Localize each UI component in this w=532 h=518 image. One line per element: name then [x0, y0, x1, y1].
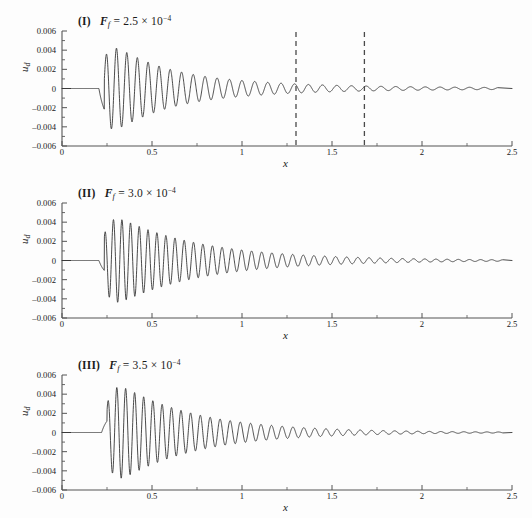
panel-title-II: (II) Ff = 3.0 × 10−4 — [78, 186, 176, 201]
y-tick-label: –0.004 — [20, 294, 56, 304]
x-axis-label-I: x — [283, 157, 288, 169]
waveform-curve — [62, 388, 512, 479]
y-tick-label: 0.002 — [20, 64, 56, 74]
force-value-III: 3.5 — [133, 359, 148, 371]
force-value-I: 2.5 — [123, 15, 138, 27]
x-tick-label: 2 — [407, 319, 437, 329]
y-tick-label: 0.002 — [20, 408, 56, 418]
y-tick-label: –0.002 — [20, 103, 56, 113]
force-base-I: 10 — [151, 15, 163, 27]
force-exponent-I: −4 — [163, 14, 171, 23]
y-tick-label: 0.004 — [20, 217, 56, 227]
equals-sign-I: = — [114, 15, 121, 27]
chart-panel-III: (III) Ff = 3.5 × 10−4 ud x 0.0060.0040.0… — [0, 344, 532, 516]
y-tick-label: 0 — [20, 428, 56, 438]
force-symbol-I: F — [100, 15, 108, 27]
y-tick-label: 0.004 — [20, 45, 56, 55]
x-tick-label: 2.5 — [497, 319, 527, 329]
x-axis-label-II: x — [283, 329, 288, 341]
x-tick-label: 0 — [47, 147, 77, 157]
x-tick-label: 1.5 — [317, 491, 347, 501]
x-tick-label: 2.5 — [497, 147, 527, 157]
equals-sign-III: = — [123, 359, 130, 371]
x-tick-label: 0.5 — [137, 319, 167, 329]
y-tick-label: 0.002 — [20, 236, 56, 246]
panel-label-III: (III) — [78, 359, 100, 371]
y-tick-label: –0.002 — [20, 447, 56, 457]
panel-title-I: (I) Ff = 2.5 × 10−4 — [78, 14, 171, 29]
x-tick-label: 1 — [227, 147, 257, 157]
x-tick-label: 1.5 — [317, 319, 347, 329]
times-sign-I: × — [141, 15, 148, 27]
x-tick-label: 0 — [47, 491, 77, 501]
x-tick-label: 1 — [227, 491, 257, 501]
x-axis-label-III: x — [283, 501, 288, 513]
force-exponent-II: −4 — [168, 186, 176, 195]
y-tick-label: 0.004 — [20, 389, 56, 399]
y-tick-label: 0.006 — [20, 370, 56, 380]
equals-sign-II: = — [118, 187, 125, 199]
panel-label-II: (II) — [78, 187, 95, 199]
x-tick-label: 1 — [227, 319, 257, 329]
x-tick-label: 0.5 — [137, 491, 167, 501]
x-tick-label: 2 — [407, 147, 437, 157]
chart-panel-II: (II) Ff = 3.0 × 10−4 ud x 0.0060.0040.00… — [0, 172, 532, 344]
panel-title-III: (III) Ff = 3.5 × 10−4 — [78, 358, 181, 373]
force-subscript-II: f — [113, 191, 116, 201]
times-sign-III: × — [151, 359, 158, 371]
figure-container: (I) Ff = 2.5 × 10−4 ud x 0.0060.0040.002… — [0, 0, 532, 518]
y-tick-label: –0.004 — [20, 466, 56, 476]
times-sign-II: × — [146, 187, 153, 199]
x-tick-label: 0.5 — [137, 147, 167, 157]
force-exponent-III: −4 — [172, 358, 180, 367]
x-tick-label: 0 — [47, 319, 77, 329]
x-tick-label: 2.5 — [497, 491, 527, 501]
force-symbol-II: F — [105, 187, 113, 199]
force-base-III: 10 — [160, 359, 172, 371]
panel-label-I: (I) — [78, 15, 91, 27]
x-tick-label: 2 — [407, 491, 437, 501]
y-tick-label: 0.006 — [20, 198, 56, 208]
chart-panel-I: (I) Ff = 2.5 × 10−4 ud x 0.0060.0040.002… — [0, 0, 532, 172]
waveform-curve — [62, 220, 512, 303]
force-subscript-I: f — [108, 19, 111, 29]
force-subscript-III: f — [117, 363, 120, 373]
waveform-curve — [62, 48, 512, 129]
y-tick-label: 0 — [20, 256, 56, 266]
y-tick-label: –0.002 — [20, 275, 56, 285]
y-tick-label: 0 — [20, 84, 56, 94]
force-base-II: 10 — [156, 187, 168, 199]
y-tick-label: –0.004 — [20, 122, 56, 132]
x-tick-label: 1.5 — [317, 147, 347, 157]
y-tick-label: 0.006 — [20, 26, 56, 36]
force-value-II: 3.0 — [128, 187, 143, 199]
